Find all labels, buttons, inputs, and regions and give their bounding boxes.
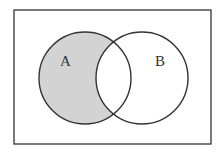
label-b: B — [155, 53, 165, 69]
venn-diagram: A B — [0, 0, 222, 155]
label-a: A — [60, 53, 71, 69]
